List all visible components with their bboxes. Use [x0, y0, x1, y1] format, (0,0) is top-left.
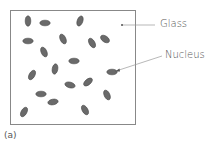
nucleus-ellipse [25, 16, 31, 26]
nuclei-diagram [0, 0, 223, 146]
nucleus-label: Nucleus [165, 49, 205, 60]
glass-pointer-dot [121, 24, 123, 26]
nucleus-ellipse [107, 69, 117, 75]
glass-slide-box [11, 11, 136, 125]
nucleus-ellipse [40, 20, 50, 26]
glass-label: Glass [160, 18, 187, 29]
nucleus-ellipse [23, 38, 33, 44]
nucleus-ellipse [69, 58, 79, 64]
figure-caption: (a) [4, 130, 17, 140]
nucleus-ellipse [36, 91, 46, 97]
